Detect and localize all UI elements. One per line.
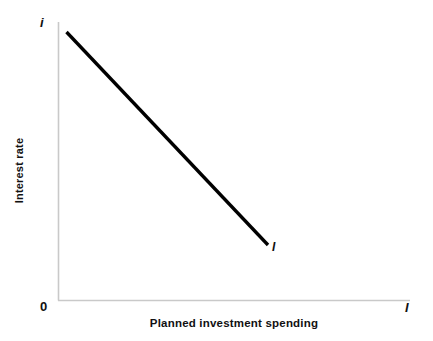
investment-demand-figure: Interest rate Planned investment spendin… [0, 0, 433, 341]
y-axis-symbol-label: i [40, 16, 44, 29]
y-axis-title: Interest rate [14, 0, 36, 341]
investment-demand-curve-label: I [272, 241, 275, 253]
x-axis-symbol-label: I [405, 301, 409, 314]
investment-demand-curve [67, 32, 269, 245]
origin-label: 0 [40, 300, 47, 313]
x-axis-title: Planned investment spending [58, 318, 410, 330]
chart-canvas [0, 0, 433, 341]
